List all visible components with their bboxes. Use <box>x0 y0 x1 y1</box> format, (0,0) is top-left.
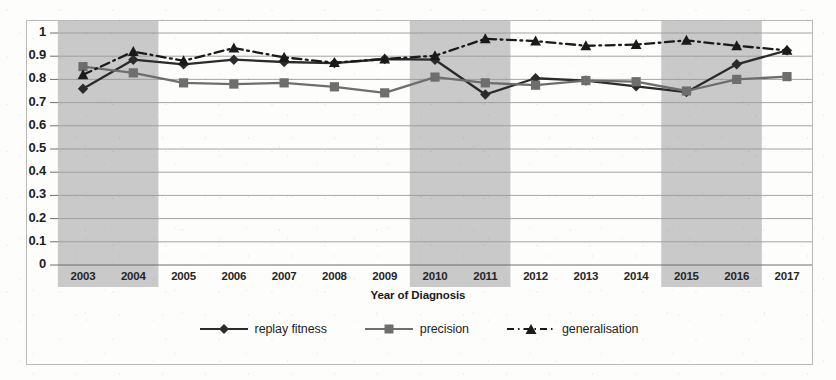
data-point-precision-2012 <box>531 81 540 90</box>
y-axis-label-0.7: 0.7 <box>12 94 46 109</box>
legend-swatch-square-icon <box>363 322 415 336</box>
shaded-band-2010-2011 <box>410 21 511 287</box>
data-point-precision-2004 <box>129 68 138 77</box>
y-axis-label-0.8: 0.8 <box>12 70 46 85</box>
data-point-generalisation-2006 <box>228 42 239 52</box>
y-axis-label-0.2: 0.2 <box>12 210 46 225</box>
x-axis-label-2004: 2004 <box>110 270 156 282</box>
x-axis-label-2009: 2009 <box>362 270 408 282</box>
x-axis-title: Year of Diagnosis <box>0 289 836 301</box>
data-point-precision-2015 <box>682 86 691 95</box>
x-axis-label-2005: 2005 <box>161 270 207 282</box>
data-point-precision-2016 <box>732 75 741 84</box>
y-axis-label-0.9: 0.9 <box>12 47 46 62</box>
data-point-precision-2007 <box>280 78 289 87</box>
data-point-precision-2010 <box>430 72 439 81</box>
x-axis-label-2017: 2017 <box>764 270 810 282</box>
x-axis-label-2006: 2006 <box>211 270 257 282</box>
data-point-precision-2011 <box>481 78 490 87</box>
y-axis-label-0: 0 <box>12 256 46 271</box>
legend-item-precision[interactable]: precision <box>363 322 469 336</box>
data-point-precision-2013 <box>581 76 590 85</box>
data-point-precision-2006 <box>229 79 238 88</box>
data-point-precision-2005 <box>179 78 188 87</box>
data-point-precision-2017 <box>782 72 791 81</box>
y-axis-label-0.1: 0.1 <box>12 233 46 248</box>
y-axis-label-1: 1 <box>12 24 46 39</box>
y-axis-label-0.4: 0.4 <box>12 163 46 178</box>
x-axis-label-2012: 2012 <box>513 270 559 282</box>
x-axis-label-2014: 2014 <box>613 270 659 282</box>
legend-item-replay-fitness[interactable]: replay fitness <box>198 322 327 336</box>
data-point-precision-2014 <box>632 77 641 86</box>
chart-figure: 00.10.20.30.40.50.60.70.80.91 2003200420… <box>0 0 836 380</box>
y-axis-label-0.5: 0.5 <box>12 140 46 155</box>
y-axis-label-0.3: 0.3 <box>12 186 46 201</box>
chart-legend: replay fitness precision generalisation <box>0 322 836 336</box>
data-point-precision-2009 <box>380 88 389 97</box>
x-axis-label-2015: 2015 <box>663 270 709 282</box>
x-axis-label-2007: 2007 <box>261 270 307 282</box>
x-axis-label-2008: 2008 <box>311 270 357 282</box>
x-axis-label-2010: 2010 <box>412 270 458 282</box>
x-axis-label-2011: 2011 <box>462 270 508 282</box>
x-axis-label-2013: 2013 <box>563 270 609 282</box>
legend-label-precision: precision <box>420 322 469 336</box>
legend-label-replay-fitness: replay fitness <box>255 322 327 336</box>
legend-label-generalisation: generalisation <box>562 322 638 336</box>
y-axis-label-0.6: 0.6 <box>12 117 46 132</box>
legend-swatch-diamond-icon <box>198 322 250 336</box>
x-axis-label-2016: 2016 <box>714 270 760 282</box>
x-axis-label-2003: 2003 <box>60 270 106 282</box>
legend-item-generalisation[interactable]: generalisation <box>505 322 638 336</box>
legend-swatch-triangle-icon <box>505 322 557 336</box>
data-point-precision-2008 <box>330 82 339 91</box>
shaded-bands-layer <box>58 21 762 287</box>
